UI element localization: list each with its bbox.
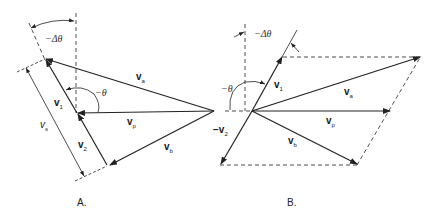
vs-dimension-line: [26, 68, 84, 176]
vector-diagram: −Δθ −θ v1 v2 vs va vp vb A. −Δθ −θ v1 −v…: [0, 0, 434, 214]
label-a-delta-theta: −Δθ: [45, 33, 63, 44]
panel-b: [220, 24, 421, 165]
label-b-v1: v1: [274, 79, 284, 92]
theta-arc-b: [230, 81, 265, 110]
label-a-vp: vp: [127, 116, 137, 129]
label-b-theta: −θ: [221, 83, 233, 94]
label-b-delta-theta: −Δθ: [254, 28, 272, 39]
label-a-v2: v2: [78, 139, 88, 152]
label-a-v1: v1: [54, 97, 64, 110]
label-a-va: va: [136, 71, 146, 84]
dim-extension-top: [17, 59, 45, 72]
label-b-va: va: [344, 86, 354, 99]
tilted-reference-line: [29, 23, 45, 60]
label-a-vs: vs: [40, 119, 48, 132]
theta-arc: [66, 88, 99, 112]
vector-neg-v2-b: [221, 111, 252, 164]
label-b-vb: vb: [288, 135, 298, 148]
caption-b: B.: [287, 197, 296, 208]
v1-extension-line: [282, 30, 297, 57]
label-a-vb: vb: [164, 141, 174, 154]
delta-theta-arc: [31, 20, 74, 28]
vector-vb-b: [252, 111, 357, 164]
delta-theta-pointer-right: [291, 43, 299, 52]
caption-a: A.: [77, 197, 86, 208]
label-a-theta: −θ: [95, 87, 107, 98]
delta-theta-pointer-left: [234, 32, 244, 37]
vector-vb: [110, 111, 214, 165]
label-b-neg-v2: −v2: [213, 124, 228, 137]
label-b-vp: vp: [326, 115, 336, 128]
